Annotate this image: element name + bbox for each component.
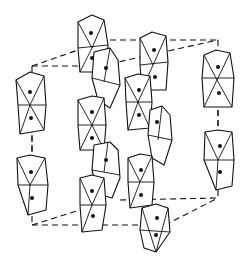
- octahedra-column-left: [16, 72, 48, 215]
- crystal-structure-diagram: [0, 0, 248, 265]
- octahedra-column-center-left: [78, 15, 120, 232]
- octahedra-column-center-right: [125, 32, 172, 252]
- unit-cell-edges: [32, 40, 218, 225]
